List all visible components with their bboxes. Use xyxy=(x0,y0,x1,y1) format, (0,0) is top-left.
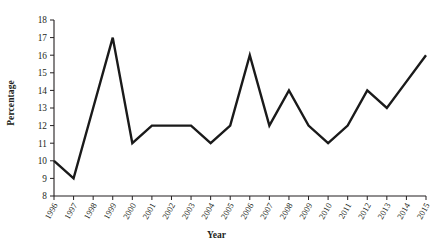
x-axis-tick-label: 2000 xyxy=(121,201,138,221)
y-axis-tick-label: 9 xyxy=(42,174,47,184)
x-axis-tick-label: 1999 xyxy=(101,201,118,221)
y-axis-tick-label: 16 xyxy=(38,51,48,61)
y-axis-tick-label: 15 xyxy=(38,68,48,78)
x-axis-tick-label: 2005 xyxy=(219,201,236,221)
x-axis-tick-label: 2015 xyxy=(414,201,431,221)
y-axis-tick-label: 17 xyxy=(38,33,48,43)
y-axis-tick-label: 13 xyxy=(38,103,48,113)
x-axis-tick-label: 1996 xyxy=(42,200,60,220)
x-axis-tick-label: 1997 xyxy=(62,200,80,220)
x-axis-tick-group: 1996199719981999200020012002200320042005… xyxy=(42,196,431,221)
y-axis-tick-label: 12 xyxy=(38,121,48,131)
chart-canvas: 18171615141312111098 1996199719981999200… xyxy=(22,8,433,251)
line-chart: Percentage 18171615141312111098 19961997… xyxy=(0,0,433,251)
x-axis-tick-label: 2011 xyxy=(336,201,353,221)
plot-area: 18171615141312111098 1996199719981999200… xyxy=(22,8,433,251)
x-axis-tick-label: 2002 xyxy=(160,201,177,221)
x-axis-tick-label: 2003 xyxy=(180,201,197,221)
y-axis-tick-label: 10 xyxy=(38,156,48,166)
data-series-line xyxy=(54,38,426,179)
x-axis-tick-label: 1998 xyxy=(82,201,99,221)
x-axis-tick-label: 2001 xyxy=(140,201,157,221)
x-axis-tick-label: 2012 xyxy=(356,201,373,221)
x-axis-tick-label: 2009 xyxy=(297,201,314,221)
x-axis-title: Year xyxy=(0,230,433,240)
x-axis-title-text: Year xyxy=(207,230,226,240)
y-axis-title-text: Percentage xyxy=(6,80,16,126)
x-axis-tick-label: 2010 xyxy=(317,201,334,221)
x-axis-tick-label: 2006 xyxy=(238,200,256,220)
x-axis-tick-label: 2007 xyxy=(258,200,276,220)
y-axis-tick-label: 11 xyxy=(38,139,47,149)
x-axis-tick-label: 2014 xyxy=(395,200,413,220)
y-axis-tick-label: 8 xyxy=(42,191,47,201)
x-axis-tick-label: 2004 xyxy=(199,200,217,220)
y-axis-tick-label: 18 xyxy=(38,15,48,25)
y-axis-title: Percentage xyxy=(0,0,22,205)
y-axis-tick-group: 18171615141312111098 xyxy=(38,15,54,201)
x-axis-tick-label: 2008 xyxy=(277,201,294,221)
y-axis-tick-label: 14 xyxy=(38,86,48,96)
x-axis-tick-label: 2013 xyxy=(375,201,392,221)
